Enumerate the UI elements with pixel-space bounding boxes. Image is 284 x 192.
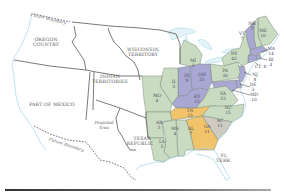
votes-in: 9: [186, 78, 189, 83]
votes-sc: 11: [217, 123, 223, 128]
bottom-rule: [5, 189, 271, 191]
votes-md: 10: [251, 97, 257, 102]
votes-nh: 7: [251, 26, 254, 31]
votes-mi: 3: [192, 63, 195, 68]
florida-label-2: TERR.: [216, 158, 232, 163]
votes-va: 23: [220, 96, 226, 101]
votes-pa: 30: [222, 73, 228, 78]
votes-ri: 4: [270, 62, 273, 67]
votes-tn: 15: [187, 113, 193, 118]
votes-la: 5: [161, 144, 164, 149]
votes-nc: 15: [225, 110, 231, 115]
votes-ny: 42: [231, 56, 237, 61]
north-boundary-label: Future Boundary: [29, 11, 67, 25]
texas-label-2: REPUBLIC: [126, 141, 153, 146]
votes-ma: 14: [268, 51, 274, 56]
wisconsin-label-2: TERRITORY: [128, 52, 159, 57]
disputed-label-2: Area: [98, 125, 110, 130]
votes-ar: 3: [158, 125, 161, 130]
votes-oh: 21: [199, 77, 205, 82]
votes-mo: 4: [156, 98, 159, 103]
votes-vt: 7: [241, 36, 244, 41]
indian-label-2: TERRITORIES: [92, 79, 128, 84]
oregon-label-2: COUNTRY: [33, 42, 60, 47]
votes-il: 5: [173, 84, 176, 89]
electoral-map: Future Boundary Future Boundary OREGON C…: [0, 0, 284, 192]
votes-ga: 11: [204, 129, 210, 134]
votes-ky: 15: [194, 99, 200, 104]
state-ct: [248, 55, 257, 63]
votes-ms: 4: [174, 131, 177, 136]
votes-me: 10: [260, 33, 266, 38]
south-boundary-label: Future Boundary: [47, 136, 85, 152]
votes-al: 7: [190, 131, 193, 136]
mexico-label: PART OF MEXICO: [29, 102, 75, 107]
votes-ct: 8: [264, 64, 267, 69]
